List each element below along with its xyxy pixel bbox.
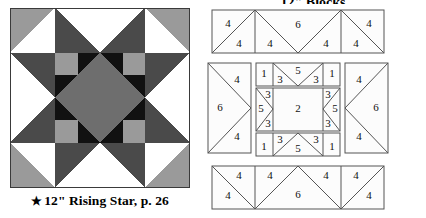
label-ctop-2: 5 bbox=[295, 64, 301, 76]
label-left-2: 4 bbox=[234, 130, 240, 142]
label-cbot-0: 1 bbox=[261, 140, 267, 152]
corner-unit-bottom-left bbox=[10, 143, 55, 188]
label-left-1: 6 bbox=[217, 101, 223, 113]
label-cmid-1: 5 bbox=[258, 102, 264, 114]
block-caption: ★12" Rising Star, p. 26 bbox=[0, 193, 200, 213]
diagram-right-unit: 4 6 4 bbox=[345, 63, 388, 153]
label-cmid-0: 3 bbox=[265, 88, 271, 100]
diagram-center-bottom-strip: 1 3 5 3 1 bbox=[256, 133, 340, 156]
label-right-0: 4 bbox=[356, 73, 362, 85]
diagram-panel: 12" Blocks .u{fill:#fcfcfc;stroke:#55555… bbox=[200, 0, 426, 218]
label-right-2: 4 bbox=[356, 130, 362, 142]
label-top-1: 4 bbox=[236, 37, 242, 49]
inner-corner-bl bbox=[55, 120, 78, 143]
diagram-center-middle-strip: 3 5 3 2 3 5 3 bbox=[256, 88, 340, 131]
inner-corner-tl bbox=[55, 53, 78, 76]
label-bot-6: 4 bbox=[366, 189, 372, 201]
piecing-diagram: .u{fill:#fcfcfc;stroke:#555555;stroke-wi… bbox=[206, 8, 421, 214]
block-caption-text: 12" Rising Star, p. 26 bbox=[44, 193, 169, 208]
label-cbot-4: 1 bbox=[329, 140, 335, 152]
label-ctop-0: 1 bbox=[261, 67, 267, 79]
diagram-left-unit: 4 6 4 bbox=[208, 63, 251, 153]
label-bot-4: 4 bbox=[323, 169, 329, 181]
label-cmid-4: 3 bbox=[325, 88, 331, 100]
label-top-6: 4 bbox=[366, 17, 372, 29]
block-panel: .w{fill:#ffffff} .lg{fill:#9a9a9a} .mg{f… bbox=[0, 0, 200, 218]
label-cbot-3: 3 bbox=[313, 133, 319, 145]
label-top-0: 4 bbox=[225, 17, 231, 29]
label-cbot-2: 5 bbox=[295, 142, 301, 154]
label-bot-5: 4 bbox=[353, 169, 359, 181]
label-top-2: 4 bbox=[267, 37, 273, 49]
label-bot-2: 4 bbox=[267, 169, 273, 181]
corner-unit-top-right bbox=[145, 8, 190, 53]
label-bot-3: 6 bbox=[295, 188, 301, 200]
center-star-unit bbox=[55, 53, 145, 143]
diagram-title: 12" Blocks bbox=[200, 0, 426, 4]
diagram-center-top-strip: 1 3 5 3 1 bbox=[256, 63, 340, 86]
inner-corner-br bbox=[123, 120, 146, 143]
label-top-3: 6 bbox=[295, 18, 301, 30]
page-root: .w{fill:#ffffff} .lg{fill:#9a9a9a} .mg{f… bbox=[0, 0, 426, 218]
label-ctop-4: 1 bbox=[329, 67, 335, 79]
label-bot-1: 4 bbox=[225, 189, 231, 201]
corner-unit-bottom-right bbox=[145, 143, 190, 188]
outer-star-point-bottom bbox=[55, 143, 145, 188]
label-cmid-2: 3 bbox=[265, 117, 271, 129]
label-ctop-1: 3 bbox=[277, 73, 283, 85]
label-left-0: 4 bbox=[234, 73, 240, 85]
diagram-top-row: 4 4 4 6 4 4 4 bbox=[212, 10, 384, 53]
inner-center-square bbox=[78, 75, 123, 120]
label-cmid-5: 5 bbox=[332, 102, 338, 114]
inner-corner-tr bbox=[123, 53, 146, 76]
label-top-4: 4 bbox=[323, 37, 329, 49]
label-cmid-3: 2 bbox=[295, 102, 301, 114]
star-icon: ★ bbox=[31, 194, 44, 208]
quilt-block-illustration: .w{fill:#ffffff} .lg{fill:#9a9a9a} .mg{f… bbox=[10, 7, 190, 188]
label-cbot-1: 3 bbox=[277, 133, 283, 145]
label-top-5: 4 bbox=[353, 37, 359, 49]
diagram-bottom-row: 4 4 4 6 4 4 4 bbox=[212, 166, 384, 209]
label-bot-0: 4 bbox=[236, 169, 242, 181]
label-cmid-6: 3 bbox=[325, 117, 331, 129]
label-ctop-3: 3 bbox=[313, 73, 319, 85]
label-right-1: 6 bbox=[373, 101, 379, 113]
